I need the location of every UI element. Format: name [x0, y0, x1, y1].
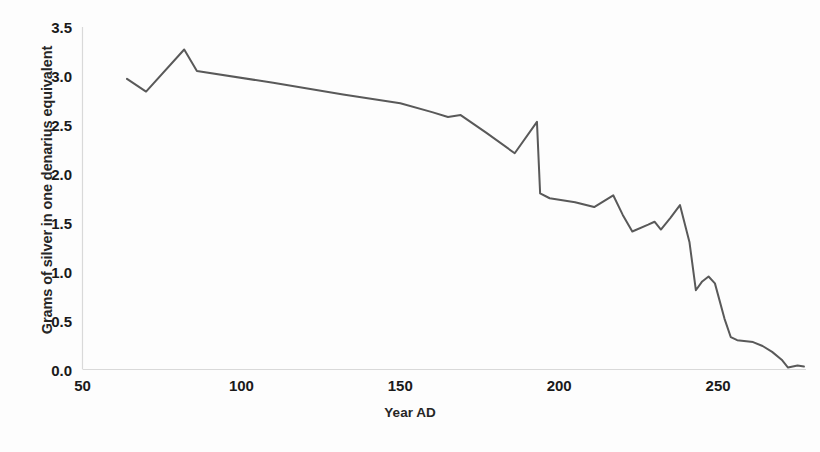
data-series-line [127, 50, 804, 368]
plot-area [0, 0, 820, 452]
silver-content-line-chart: Grams of silver in one denarius equivale… [0, 0, 820, 452]
